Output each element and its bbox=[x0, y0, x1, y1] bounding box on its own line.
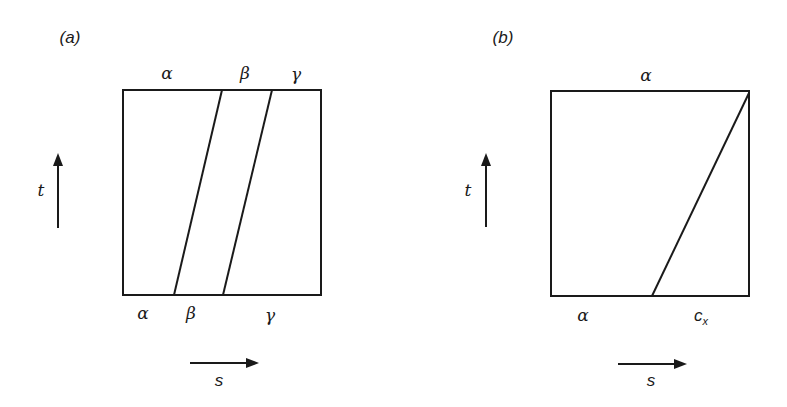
panel-b-bottom-alpha: α bbox=[577, 307, 588, 324]
arrowhead-up-icon bbox=[53, 153, 63, 166]
panel-a-bottom-gamma: γ bbox=[265, 307, 275, 324]
panel-b-top-alpha: α bbox=[640, 67, 651, 84]
panel-a-boundary-2 bbox=[223, 90, 272, 295]
diagram-canvas bbox=[0, 0, 787, 407]
panel-b-t-label: t bbox=[465, 182, 472, 199]
arrowhead-up-icon bbox=[481, 153, 491, 166]
panel-a-top-beta: β bbox=[240, 65, 250, 82]
panel-a-bottom-beta: β bbox=[186, 305, 196, 322]
panel-a-bottom-alpha: α bbox=[137, 305, 148, 322]
panel-b-box bbox=[551, 91, 749, 296]
arrowhead-right-icon bbox=[674, 359, 687, 369]
panel-b-bottom-cx: cx bbox=[694, 307, 708, 327]
arrowhead-right-icon bbox=[246, 358, 259, 368]
panel-b-label: (b) bbox=[493, 29, 514, 46]
cx-base: c bbox=[694, 306, 703, 325]
panel-a-top-alpha: α bbox=[161, 65, 172, 82]
cx-subscript: x bbox=[703, 315, 709, 327]
panel-b-s-label: s bbox=[647, 372, 656, 389]
panel-a-box bbox=[123, 90, 321, 295]
panel-a-top-gamma: γ bbox=[291, 66, 301, 83]
panel-a-label: (a) bbox=[60, 29, 81, 46]
panel-b-boundary bbox=[652, 93, 749, 296]
panel-a-s-label: s bbox=[215, 372, 224, 389]
panel-a-boundary-1 bbox=[174, 90, 222, 295]
panel-a-t-label: t bbox=[38, 182, 45, 199]
